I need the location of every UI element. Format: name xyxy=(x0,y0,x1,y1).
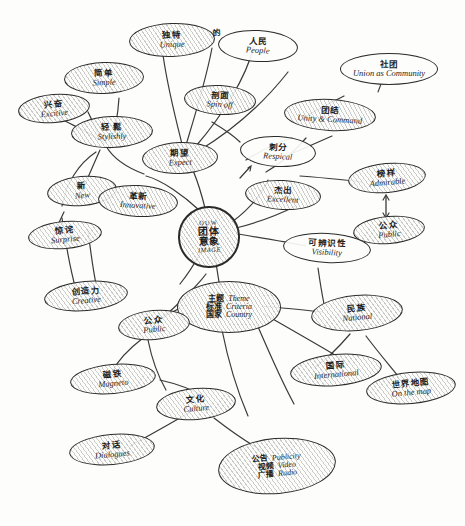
node-dialogues-en: Dialogues xyxy=(95,448,131,460)
node-people-particle: 的 xyxy=(211,25,220,37)
node-excitive-en: Excitive xyxy=(40,108,68,119)
node-unity-en: Unity & Command xyxy=(297,114,362,126)
node-unity[interactable]: 团结 Unity & Command xyxy=(283,97,377,134)
node-national-en: National xyxy=(342,312,372,323)
node-simple-en: Simple xyxy=(92,78,115,87)
node-spin-off-en: Spin off xyxy=(206,100,233,110)
node-expect[interactable]: 期望 Expect xyxy=(141,141,218,176)
node-admirable[interactable]: 榜样 Admirable xyxy=(347,160,427,197)
node-magneto-en: Magneto xyxy=(98,378,129,389)
node-creative-en: Creative xyxy=(72,295,102,306)
node-public-left-en: Public xyxy=(143,324,166,334)
node-new-en: New xyxy=(74,191,90,201)
node-publicity-video-radio[interactable]: 公告 Publicity 视频 Video 广播 Radio xyxy=(216,433,338,499)
node-magneto[interactable]: 磁铁 Magneto xyxy=(69,360,157,397)
node-people-en: People xyxy=(246,46,270,56)
node-admirable-en: Admirable xyxy=(369,177,405,189)
node-union-community-en: Union as Community xyxy=(353,69,425,78)
node-expect-en: Expect xyxy=(168,158,191,167)
node-respect[interactable]: 刺分 Respical xyxy=(239,134,317,169)
radio-row: 广播 Radio xyxy=(258,468,298,479)
node-surprise[interactable]: 惊诧 Surprise xyxy=(27,218,103,252)
center-node-en: IMAGE xyxy=(198,247,221,254)
node-people[interactable]: 人民 People xyxy=(217,28,299,64)
mindmap-canvas: 独特 Unique 人民 People 的 简单 Simple 兴奋 Excit… xyxy=(0,0,465,526)
node-creative[interactable]: 创造力 Creative xyxy=(43,277,129,314)
node-stylishly[interactable]: 轻 鬆 Stylishly xyxy=(70,115,153,150)
node-stylishly-en: Stylishly xyxy=(98,132,127,142)
node-excellent-en: Excellent xyxy=(267,194,299,204)
node-simple[interactable]: 简单 Simple xyxy=(63,61,144,96)
node-on-the-map-en: On the map xyxy=(391,387,431,399)
node-public-left[interactable]: 公众 Public xyxy=(117,307,191,343)
node-theme-criteria-country[interactable]: 主题 Theme 标准 Criteria 国家 Country xyxy=(177,281,281,333)
node-dialogues[interactable]: 对话 Dialogues xyxy=(68,430,156,468)
node-excellent[interactable]: 杰出 Excellent xyxy=(244,178,321,212)
node-public-right-en: Public xyxy=(378,229,401,239)
country-row: 国家 Country xyxy=(206,311,252,319)
node-on-the-map[interactable]: 世界地图 On the map xyxy=(365,368,457,408)
node-international-en: International xyxy=(314,368,359,380)
node-excitive[interactable]: 兴奋 Excitive xyxy=(17,91,91,126)
node-innovative[interactable]: 革新 Innovative xyxy=(97,183,179,219)
node-union-community[interactable]: 社团 Union as Community xyxy=(340,53,438,85)
node-spin-off[interactable]: 剖面 Spin off xyxy=(183,83,256,117)
node-unique[interactable]: 独特 Unique xyxy=(128,22,215,59)
center-node-image[interactable]: OUW 团体 意象 IMAGE xyxy=(177,205,241,269)
node-culture-en: Culture xyxy=(183,403,209,414)
node-surprise-en: Surprise xyxy=(51,234,80,245)
node-national[interactable]: 民族 National xyxy=(310,291,405,335)
node-visibility-en: Visibility xyxy=(312,247,342,257)
node-culture[interactable]: 文化 Culture xyxy=(155,385,237,424)
node-unique-en: Unique xyxy=(160,40,185,49)
node-respect-en: Respical xyxy=(263,151,293,161)
node-innovative-en: Innovative xyxy=(120,200,156,210)
